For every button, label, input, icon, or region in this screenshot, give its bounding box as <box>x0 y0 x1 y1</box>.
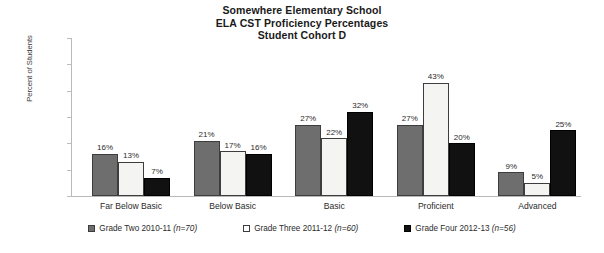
bar[interactable]: 43% <box>423 83 449 196</box>
bar-value-label: 22% <box>326 128 342 137</box>
bar-value-label: 43% <box>428 72 444 81</box>
legend-sample-size: (n=56) <box>492 224 516 233</box>
x-category-label: Advanced <box>476 201 598 211</box>
legend-label: Grade Four 2012-13 (n=56) <box>415 224 515 233</box>
bar[interactable]: 13% <box>118 162 144 196</box>
chart-container: Somewhere Elementary School ELA CST Prof… <box>0 0 604 253</box>
bar-value-label: 9% <box>506 162 518 171</box>
bar[interactable]: 5% <box>524 183 550 196</box>
chart-title: Somewhere Elementary School ELA CST Prof… <box>0 4 604 42</box>
legend-sample-size: (n=60) <box>334 224 358 233</box>
bar[interactable]: 25% <box>550 130 576 196</box>
bar-group: 27%43%20% <box>397 38 475 196</box>
title-line-2: ELA CST Proficiency Percentages <box>0 17 604 30</box>
y-tick-20% <box>67 143 71 144</box>
y-tick-40% <box>67 91 71 92</box>
bar[interactable]: 20% <box>449 143 475 196</box>
x-axis-line <box>71 196 581 197</box>
bar-group: 27%22%32% <box>295 38 373 196</box>
legend-sample-size: (n=70) <box>173 224 197 233</box>
legend-swatch <box>404 225 411 232</box>
legend-swatch <box>88 225 95 232</box>
bar-value-label: 16% <box>251 143 267 152</box>
bar[interactable]: 7% <box>144 178 170 196</box>
bar-value-label: 7% <box>151 167 163 176</box>
bar-value-label: 13% <box>123 151 139 160</box>
legend-label: Grade Three 2011-12 (n=60) <box>254 224 358 233</box>
legend-swatch <box>243 225 250 232</box>
bar[interactable]: 27% <box>295 125 321 196</box>
y-axis-label: Percent of Students <box>25 14 34 124</box>
bar-value-label: 21% <box>199 130 215 139</box>
bar[interactable]: 17% <box>220 151 246 196</box>
legend-item[interactable]: Grade Three 2011-12 (n=60) <box>243 224 358 233</box>
legend-label: Grade Two 2010-11 (n=70) <box>99 224 197 233</box>
legend-item[interactable]: Grade Two 2010-11 (n=70) <box>88 224 197 233</box>
bar-group: 9%5%25% <box>498 38 576 196</box>
legend-item[interactable]: Grade Four 2012-13 (n=56) <box>404 224 515 233</box>
bar-value-label: 16% <box>97 143 113 152</box>
bar[interactable]: 32% <box>347 112 373 196</box>
y-tick-30% <box>67 117 71 118</box>
bar[interactable]: 16% <box>92 154 118 196</box>
chart-legend: Grade Two 2010-11 (n=70)Grade Three 2011… <box>0 224 604 233</box>
y-tick-50% <box>67 64 71 65</box>
y-tick-10% <box>67 170 71 171</box>
bar[interactable]: 16% <box>246 154 272 196</box>
y-tick-60% <box>67 38 71 39</box>
bar-value-label: 25% <box>555 120 571 129</box>
bar-group: 21%17%16% <box>194 38 272 196</box>
title-line-1: Somewhere Elementary School <box>0 4 604 17</box>
bar[interactable]: 21% <box>194 141 220 196</box>
bar-value-label: 27% <box>402 114 418 123</box>
bar-value-label: 27% <box>300 114 316 123</box>
bar-value-label: 32% <box>352 101 368 110</box>
bar[interactable]: 22% <box>321 138 347 196</box>
bar-value-label: 17% <box>225 141 241 150</box>
plot-area: 0%10%20%30%40%50%60%16%13%7%Far Below Ba… <box>72 38 580 196</box>
bar[interactable]: 27% <box>397 125 423 196</box>
bar-value-label: 20% <box>454 133 470 142</box>
bar[interactable]: 9% <box>498 172 524 196</box>
y-tick-0% <box>67 196 71 197</box>
bar-group: 16%13%7% <box>92 38 170 196</box>
bar-value-label: 5% <box>532 172 544 181</box>
